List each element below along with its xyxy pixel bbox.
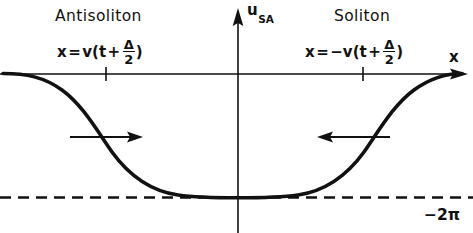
soliton-direction-arrow [317, 132, 390, 143]
antisoliton-equation-close-paren: ) [136, 45, 143, 60]
soliton-equation-velocity: −v [330, 45, 352, 60]
soliton-equation-numerator: Δ [383, 38, 395, 53]
plot-canvas [0, 0, 473, 233]
antisoliton-equation-equals: = [68, 45, 81, 60]
antisoliton-equation-lhs: x [57, 45, 67, 60]
y-axis-label-base: u [247, 1, 258, 19]
soliton-title: Soliton [334, 9, 390, 25]
y-axis-label-subscript: SA [258, 13, 274, 25]
antisoliton-equation-open-paren: ( [92, 45, 99, 60]
soliton-equation-denominator: 2 [385, 52, 394, 66]
y-axis-label: uSA [247, 3, 273, 21]
soliton-antisoliton-figure: Antisoliton x = v ( t + Δ 2 ) Soliton x … [0, 0, 473, 233]
antisoliton-equation-fraction: Δ 2 [123, 38, 135, 67]
soliton-antisoliton-curve [3, 74, 462, 198]
antisoliton-equation-velocity: v [82, 45, 92, 60]
antisoliton-equation-time: t [99, 45, 106, 60]
antisoliton-equation-denominator: 2 [124, 52, 133, 66]
soliton-equation-plus: + [368, 45, 381, 60]
antisoliton-equation-numerator: Δ [123, 38, 135, 53]
antisoliton-equation: x = v ( t + Δ 2 ) [57, 38, 143, 67]
soliton-equation-open-paren: ( [353, 45, 360, 60]
soliton-equation: x = −v ( t + Δ 2 ) [305, 38, 403, 67]
soliton-equation-time: t [359, 45, 366, 60]
antisoliton-title: Antisoliton [55, 9, 142, 25]
x-axis-label: x [449, 50, 459, 65]
soliton-equation-equals: = [316, 45, 329, 60]
x-axis [0, 69, 468, 80]
soliton-equation-fraction: Δ 2 [383, 38, 395, 67]
antisoliton-equation-plus: + [108, 45, 121, 60]
soliton-equation-lhs: x [305, 45, 315, 60]
soliton-equation-close-paren: ) [396, 45, 403, 60]
lower-asymptote-label: −2π [424, 208, 460, 224]
